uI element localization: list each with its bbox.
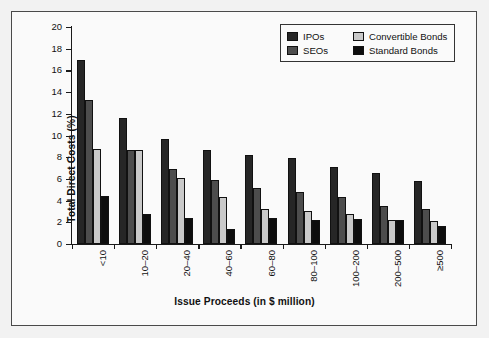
bar [143,214,151,244]
x-axis-tick-label: 80–100 [308,250,319,282]
y-axis-tick-label: 18 [51,43,62,54]
legend-swatch-ipos [287,32,298,41]
bar [101,196,109,244]
y-axis-tick-label: 4 [57,195,62,206]
bar [93,149,101,244]
bar [422,209,430,244]
legend-item-seos: SEOs [287,45,353,56]
bar [372,173,380,244]
legend-item-ipos: IPOs [287,31,353,42]
chart-legend: IPOs Convertible Bonds SEOs Standard Bon… [280,24,455,62]
y-axis-tick-label: 20 [51,21,62,32]
bar [211,180,219,244]
x-axis-tick-label: 20–40 [181,250,192,276]
x-axis-title: Issue Proceeds (in $ million) [0,296,489,307]
bar [261,209,269,244]
bar [253,188,261,244]
bar [312,220,320,244]
bar [85,100,93,244]
y-axis-tick-label: 6 [57,173,62,184]
bar [269,218,277,244]
bar [288,158,296,244]
x-axis-tick [409,245,410,249]
bar [414,181,422,244]
x-axis-tick [240,245,241,249]
y-axis-tick-label: 0 [57,238,62,249]
bar [219,197,227,244]
x-axis-tick [156,245,157,249]
x-axis-tick [283,245,284,249]
y-axis-tick-label: 12 [51,108,62,119]
bar [388,220,396,244]
legend-row: SEOs Standard Bonds [287,43,447,57]
legend-item-convertible-bonds: Convertible Bonds [353,31,447,42]
y-axis-tick-label: 2 [57,216,62,227]
figure-container: Total Direct Costs (%) 02468101214161820… [0,0,489,338]
x-axis-tick [367,245,368,249]
bar [169,169,177,244]
y-axis-tick-label: 14 [51,86,62,97]
legend-row: IPOs Convertible Bonds [287,29,447,43]
bar [77,60,85,244]
bar-group [240,27,282,244]
legend-swatch-convertible-bonds [353,32,364,41]
bar-group [156,27,198,244]
legend-label-seos: SEOs [303,45,328,56]
x-axis-tick [114,245,115,249]
legend-label-convertible-bonds: Convertible Bonds [369,31,447,42]
bar [203,150,211,244]
x-axis-tick-label: 60–80 [266,250,277,276]
bar [430,221,438,244]
bar-group [114,27,156,244]
bar [135,150,143,244]
bar-group [72,27,114,244]
x-axis-tick-label: <10 [97,250,108,266]
legend-label-ipos: IPOs [303,31,324,42]
legend-label-standard-bonds: Standard Bonds [369,45,438,56]
x-axis-tick-label: 200–500 [392,250,403,287]
bar [127,150,135,244]
bar [304,211,312,244]
y-axis-tick-label: 8 [57,151,62,162]
x-axis-tick [325,245,326,249]
bar [177,178,185,244]
x-axis-tick [198,245,199,249]
legend-item-standard-bonds: Standard Bonds [353,45,438,56]
y-axis-tick-label: 16 [51,64,62,75]
x-axis-line [71,244,452,245]
x-axis-tick [72,245,73,249]
legend-swatch-standard-bonds [353,46,364,55]
bar [161,139,169,244]
bar-group [198,27,240,244]
bar [185,218,193,244]
x-axis-tick-label: ≥500 [434,250,445,271]
bar [380,206,388,244]
x-axis-tick [451,245,452,249]
bar [245,155,253,244]
x-axis-tick-label: 10–20 [139,250,150,276]
x-axis-tick-label: 40–60 [223,250,234,276]
bar [338,197,346,244]
x-axis-tick-label: 100–200 [350,250,361,287]
bar [346,214,354,244]
y-axis-tick-label: 10 [51,130,62,141]
legend-swatch-seos [287,46,298,55]
bar [396,220,404,244]
bar [330,167,338,244]
bar [119,118,127,244]
bar [354,219,362,245]
bar [227,229,235,244]
bar [296,192,304,244]
bar [438,226,446,244]
